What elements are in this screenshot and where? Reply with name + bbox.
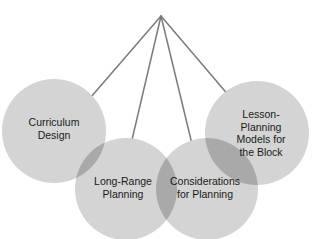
label-considerations-for-planning: Considerations for Planning — [170, 175, 240, 200]
connector-line-curriculum — [91, 16, 161, 97]
label-long-range-planning: Long-Range Planning — [94, 175, 152, 200]
label-lesson-planning-models: Lesson- Planning Models for the Block — [236, 108, 285, 158]
connector-line-long-range — [131, 16, 161, 144]
apex-point — [160, 15, 162, 17]
label-curriculum-design: Curriculum Design — [29, 116, 80, 141]
node-circles — [2, 79, 309, 239]
